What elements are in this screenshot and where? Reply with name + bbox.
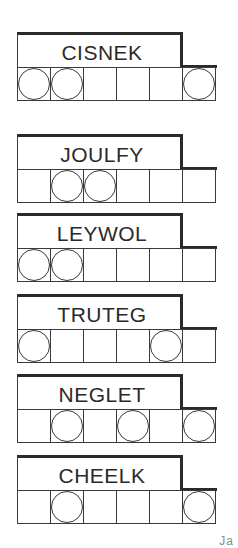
answer-cell[interactable] xyxy=(117,249,150,281)
answer-cell-circled[interactable] xyxy=(18,68,51,100)
scrambled-word-puzzle: CHEELK xyxy=(17,455,217,525)
answer-cell[interactable] xyxy=(18,170,51,202)
answer-cell[interactable] xyxy=(84,410,117,442)
answer-cell[interactable] xyxy=(183,170,216,202)
answer-cell-circled[interactable] xyxy=(51,410,84,442)
answer-cells xyxy=(17,248,216,282)
answer-cell[interactable] xyxy=(150,491,183,523)
answer-cell-circled[interactable] xyxy=(84,170,117,202)
scrambled-word-box: CHEELK xyxy=(17,455,183,490)
answer-cell[interactable] xyxy=(150,68,183,100)
answer-cell-circled[interactable] xyxy=(150,330,183,362)
answer-cell-circled[interactable] xyxy=(183,410,216,442)
answer-cell[interactable] xyxy=(150,170,183,202)
scrambled-word-box: JOULFY xyxy=(17,134,183,169)
scrambled-word-puzzle: LEYWOL xyxy=(17,213,217,283)
scrambled-word-box: NEGLET xyxy=(17,374,183,409)
answer-cell[interactable] xyxy=(150,410,183,442)
scrambled-word-box: LEYWOL xyxy=(17,213,183,248)
answer-cell[interactable] xyxy=(51,330,84,362)
answer-cell-circled[interactable] xyxy=(51,170,84,202)
answer-cell-circled[interactable] xyxy=(51,249,84,281)
answer-cell-circled[interactable] xyxy=(51,491,84,523)
answer-cell-circled[interactable] xyxy=(18,330,51,362)
scrambled-word-puzzle: JOULFY xyxy=(17,134,217,204)
answer-cells xyxy=(17,490,216,524)
answer-cell-circled[interactable] xyxy=(183,491,216,523)
answer-cell[interactable] xyxy=(84,491,117,523)
answer-cell[interactable] xyxy=(117,330,150,362)
scrambled-word-puzzle: CISNEK xyxy=(17,32,217,102)
answer-cells xyxy=(17,67,216,101)
scrambled-word: LEYWOL xyxy=(57,223,148,244)
page-mark-fragment: Ja xyxy=(219,534,234,548)
scrambled-word-puzzle: TRUTEG xyxy=(17,294,217,364)
answer-cell-circled[interactable] xyxy=(51,68,84,100)
answer-cell-circled[interactable] xyxy=(117,410,150,442)
answer-cell[interactable] xyxy=(150,249,183,281)
answer-cell-circled[interactable] xyxy=(18,249,51,281)
answer-cell[interactable] xyxy=(183,249,216,281)
scrambled-word-box: TRUTEG xyxy=(17,294,183,329)
answer-cells xyxy=(17,169,216,203)
answer-cell-circled[interactable] xyxy=(183,68,216,100)
scrambled-word-puzzle: NEGLET xyxy=(17,374,217,444)
answer-cell[interactable] xyxy=(117,491,150,523)
answer-cell[interactable] xyxy=(84,68,117,100)
answer-cell[interactable] xyxy=(117,68,150,100)
scrambled-word-box: CISNEK xyxy=(17,32,183,67)
answer-cell[interactable] xyxy=(84,330,117,362)
answer-cells xyxy=(17,329,216,363)
answer-cell[interactable] xyxy=(18,410,51,442)
scrambled-word: TRUTEG xyxy=(57,304,146,325)
answer-cells xyxy=(17,409,216,443)
answer-cell[interactable] xyxy=(117,170,150,202)
scrambled-word: NEGLET xyxy=(58,384,145,405)
scrambled-word: JOULFY xyxy=(60,144,144,165)
answer-cell[interactable] xyxy=(18,491,51,523)
scrambled-word: CISNEK xyxy=(61,42,142,63)
scrambled-word: CHEELK xyxy=(58,465,145,486)
answer-cell[interactable] xyxy=(84,249,117,281)
answer-cell[interactable] xyxy=(183,330,216,362)
